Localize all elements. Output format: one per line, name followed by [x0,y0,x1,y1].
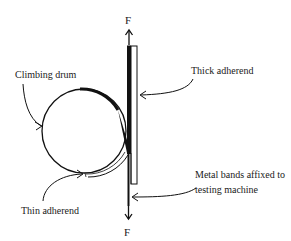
top-force-arrow [126,30,133,45]
thin-adherend-leader [43,174,82,201]
metal-bands-label-line1: Metal bands affixed to [195,169,285,180]
metal-band [129,150,132,206]
climbing-drum-leader [23,84,41,126]
climbing-drum-label: Climbing drum [15,69,77,80]
force-label-bottom: F [124,226,130,238]
climbing-drum-diagram: F F Climbing drum Thick adherend Thin ad… [0,0,291,241]
metal-bands-leader [133,188,196,197]
thin-adherend-label: Thin adherend [21,205,79,216]
force-label-top: F [125,14,131,26]
bottom-force-arrow [125,206,132,219]
metal-bands-label-line2: testing machine [195,184,259,195]
thick-adherend-leader [141,79,193,95]
climbing-drum [42,89,126,173]
thin-adherend [85,152,128,177]
thick-adherend-label: Thick adherend [191,65,253,76]
